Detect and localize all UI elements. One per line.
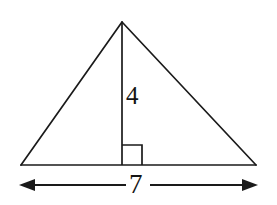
right-angle-marker-icon <box>122 145 142 165</box>
triangle-left-side <box>21 22 122 165</box>
geometry-diagram: 4 7 <box>0 0 277 205</box>
base-length-label: 7 <box>129 171 143 198</box>
altitude-length-label: 4 <box>126 83 139 108</box>
triangle-right-side <box>122 22 256 165</box>
arrow-left-icon <box>19 179 35 191</box>
arrow-right-icon <box>242 179 258 191</box>
